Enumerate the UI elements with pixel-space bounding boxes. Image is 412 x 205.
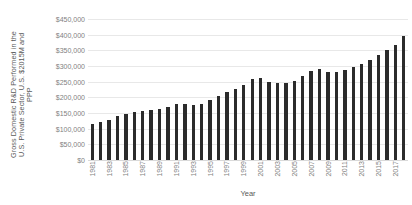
x-axis-tick-label: 1995 — [207, 161, 214, 177]
x-axis-tick-label: 2017 — [392, 161, 399, 177]
plot-area — [88, 19, 408, 160]
y-axis-tick-label: $100,000 — [56, 125, 85, 132]
y-axis-title: Gross Domestic R&D Performed in the U.S.… — [0, 0, 42, 190]
bar — [234, 89, 237, 160]
bar — [225, 92, 228, 160]
y-axis-tick-label: $150,000 — [56, 110, 85, 117]
bar — [385, 50, 388, 160]
x-axis-tick-label: 1999 — [240, 161, 247, 177]
x-axis-tick-label: 2011 — [341, 161, 348, 176]
bar — [394, 45, 397, 160]
bar — [309, 71, 312, 160]
bar — [183, 104, 186, 160]
bar — [368, 60, 371, 160]
x-axis-tick-label: 1989 — [156, 161, 163, 177]
y-axis-tick-label: $350,000 — [56, 47, 85, 54]
x-axis-tick-label: 2013 — [358, 161, 365, 177]
y-axis-tick-label: $50,000 — [60, 141, 85, 148]
y-axis-tick-label: $0 — [77, 157, 85, 164]
bar — [343, 70, 346, 160]
bar — [99, 122, 102, 160]
y-axis-tick-label: $250,000 — [56, 78, 85, 85]
bar — [242, 85, 245, 160]
bar — [267, 82, 270, 160]
bar — [217, 96, 220, 160]
x-axis-tick-label: 2003 — [274, 161, 281, 177]
x-axis-tick-label: 1981 — [89, 161, 96, 177]
bar — [360, 64, 363, 160]
x-axis-tick-label: 2001 — [257, 161, 264, 177]
x-axis-tick-label: 1991 — [173, 161, 180, 177]
x-axis-tick-label: 1985 — [122, 161, 129, 177]
bar — [377, 55, 380, 160]
bar — [259, 78, 262, 160]
x-axis-tick-label: 2009 — [325, 161, 332, 177]
bar — [301, 76, 304, 160]
bar — [326, 72, 329, 160]
bar — [107, 120, 110, 160]
bar — [116, 116, 119, 160]
bar — [318, 69, 321, 160]
bar — [175, 104, 178, 160]
bar — [200, 104, 203, 160]
y-axis-tick-label: $200,000 — [56, 94, 85, 101]
bar — [166, 107, 169, 160]
x-axis-tick-labels: 1981198319851987198919911993199519971999… — [88, 161, 408, 189]
bar — [192, 105, 195, 160]
bar — [133, 112, 136, 160]
x-axis-tick-label: 1987 — [139, 161, 146, 177]
x-axis-tick-label: 2005 — [291, 161, 298, 177]
y-axis-tick-label: $300,000 — [56, 63, 85, 70]
x-axis-tick-label: 1983 — [106, 161, 113, 177]
x-axis-title: Year — [88, 189, 408, 198]
bar — [293, 81, 296, 160]
y-axis-tick-label: $450,000 — [56, 16, 85, 23]
y-axis-title-line-3: PPP — [25, 0, 33, 190]
bar — [208, 100, 211, 160]
y-axis-tick-labels: $0$50,000$100,000$150,000$200,000$250,00… — [42, 0, 87, 205]
x-axis-tick-label: 1997 — [223, 161, 230, 177]
bar — [141, 111, 144, 160]
bar — [402, 36, 405, 160]
bars-layer — [88, 19, 408, 160]
bar — [352, 67, 355, 160]
x-axis-tick-label: 1993 — [190, 161, 197, 177]
bar — [276, 83, 279, 160]
y-axis-tick-label: $400,000 — [56, 31, 85, 38]
bar — [158, 109, 161, 160]
x-axis-tick-label: 2015 — [375, 161, 382, 177]
x-axis-tick-label: 2007 — [308, 161, 315, 177]
bar — [124, 114, 127, 160]
bar — [251, 79, 254, 160]
bar — [335, 72, 338, 160]
bar — [284, 83, 287, 160]
bar — [149, 110, 152, 160]
bar — [91, 124, 94, 160]
bar-chart: Gross Domestic R&D Performed in the U.S.… — [0, 0, 412, 205]
